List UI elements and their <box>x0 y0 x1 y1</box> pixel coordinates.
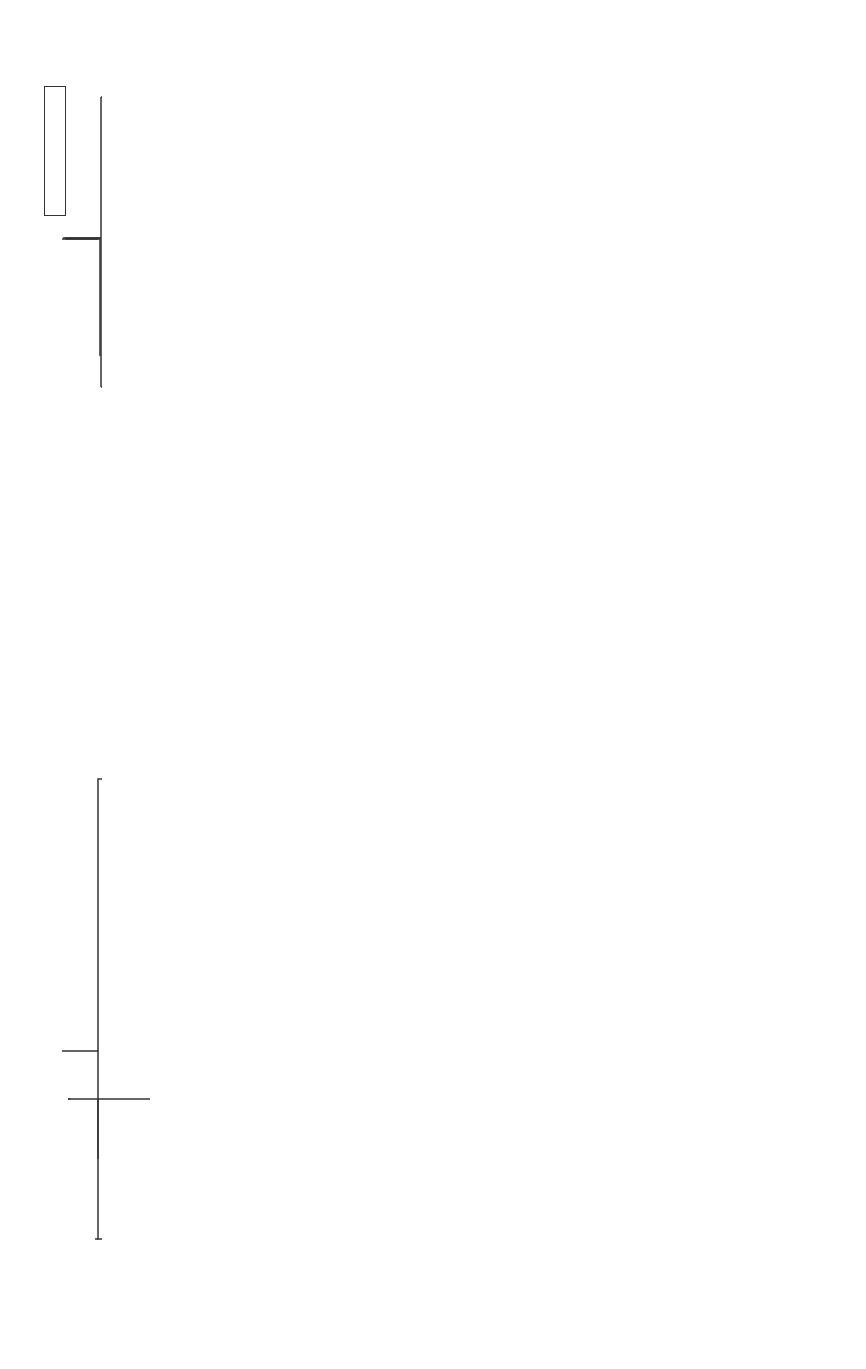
pinhole-question-box <box>44 86 66 216</box>
flowchart-canvas <box>0 0 866 1369</box>
flowchart-connectors-final <box>0 0 866 1369</box>
